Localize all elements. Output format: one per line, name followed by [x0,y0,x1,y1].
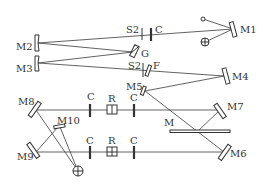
label-m2: M2 [16,41,33,52]
label-s2-upper: S2 [126,24,139,35]
upper-cell-c2: C [130,92,138,117]
mirror-m9: M9 [17,142,40,162]
label-m9: M9 [17,151,34,162]
mirror-m8: M8 [18,96,41,118]
label-r-upper: R [108,93,116,104]
mirror-m10: M10 [54,115,80,129]
lower-cell-c1: C [86,135,94,159]
filter-f: F [145,60,160,76]
label-f: F [153,60,160,71]
label-c1-lower: C [86,135,94,146]
label-c-top: C [155,24,163,35]
detector-bottom-icon [73,166,83,176]
label-m3: M3 [16,63,33,74]
grating-g: G [130,45,149,59]
label-m8: M8 [18,96,35,107]
mirror-m4: M4 [222,68,249,84]
label-m4: M4 [232,71,249,82]
detector-icon [201,38,209,46]
label-c1-upper: C [87,91,95,102]
mirror-m2: M2 [16,35,39,52]
optical-diagram: M1 M2 M3 S2 C G S2 F M4 [0,0,263,186]
label-m1: M1 [240,24,257,35]
cell-c-top: C [151,24,163,41]
mirror-m1: M1 [229,22,256,38]
label-m5: M5 [126,81,143,92]
slit-s2-lower: S2 [128,60,143,77]
upper-cell-c1: C [87,91,95,117]
label-s2-lower: S2 [128,60,141,71]
upper-rotator-r: R [107,93,117,114]
slit-s2-upper: S2 [126,24,142,40]
point-source-icon [201,17,205,21]
label-c2-upper: C [130,92,138,103]
mirror-m7: M7 [214,101,244,119]
mirror-m6: M6 [218,144,246,160]
label-m6: M6 [230,148,247,159]
lower-cell-c2: C [130,135,138,159]
lower-rotator-r: R [107,135,117,156]
label-m: M [164,117,174,128]
mirror-m3: M3 [16,56,39,74]
label-m7: M7 [227,101,244,112]
label-m10: M10 [57,115,80,126]
label-r-lower: R [108,135,116,146]
plate-m: M [164,117,230,133]
label-g: G [141,48,149,59]
label-c2-lower: C [130,135,138,146]
